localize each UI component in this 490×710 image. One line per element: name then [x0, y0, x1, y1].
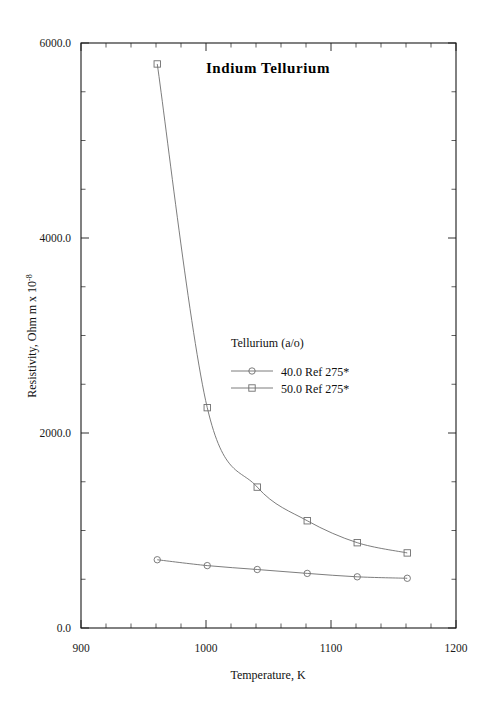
y-tick-label: 2000.0 — [39, 427, 71, 439]
y-tick-label: 6000.0 — [39, 37, 71, 49]
y-axis-title: Resistivity, Ohm m x 10-8 — [25, 274, 39, 398]
chart-title: Indium Tellurium — [206, 60, 330, 76]
x-tick-label: 1000 — [195, 642, 218, 654]
x-tick-label: 1100 — [320, 642, 343, 654]
x-axis-title: Temperature, K — [230, 668, 305, 682]
x-tick-label: 1200 — [445, 642, 468, 654]
resistivity-vs-temperature-chart: 900100011001200 0.02000.04000.06000.0 In… — [0, 0, 490, 710]
chart-figure: 900100011001200 0.02000.04000.06000.0 In… — [0, 0, 490, 710]
y-axis-title-group: Resistivity, Ohm m x 10-8 — [25, 274, 39, 398]
y-tick-label: 0.0 — [57, 622, 72, 634]
y-tick-label: 4000.0 — [39, 232, 71, 244]
x-tick-label: 900 — [72, 642, 90, 654]
legend-title: Tellurium (a/o) — [231, 336, 304, 350]
legend-label: 50.0 Ref 275* — [281, 382, 349, 396]
legend-label: 40.0 Ref 275* — [281, 365, 349, 379]
chart-background — [0, 0, 490, 710]
